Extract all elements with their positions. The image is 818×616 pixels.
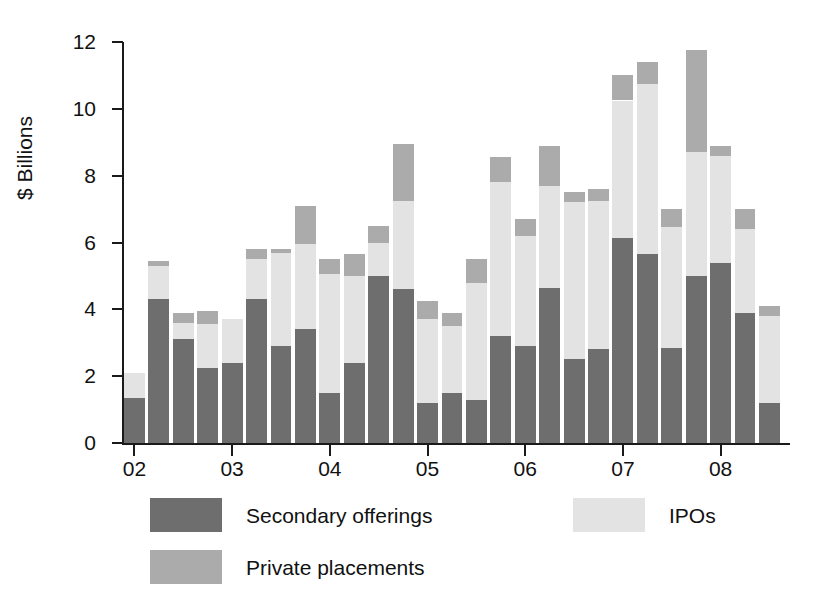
bar-07Q1 [612, 42, 633, 443]
bar-segment-ipos [319, 274, 340, 393]
bar-segment-secondary-offerings [442, 393, 463, 443]
x-tick-label-06: 06 [514, 458, 537, 480]
bar-06Q1 [515, 42, 536, 443]
bar-segment-secondary-offerings [344, 363, 365, 443]
bar-segment-secondary-offerings [368, 276, 389, 443]
bar-segment-ipos [393, 201, 414, 290]
bar-segment-secondary-offerings [759, 403, 780, 443]
bar-segment-private-placements [661, 209, 682, 227]
bar-segment-private-placements [319, 259, 340, 274]
bar-segment-private-placements [539, 146, 560, 186]
bar-segment-secondary-offerings [271, 346, 292, 443]
chart-figure: $ Billions 024681012 02030405060708 Seco… [0, 0, 818, 616]
bar-02Q4 [197, 42, 218, 443]
y-tick-label-text: 10 [73, 98, 96, 119]
bar-segment-ipos [612, 101, 633, 238]
bar-segment-private-placements [612, 75, 633, 100]
bar-segment-ipos [661, 227, 682, 347]
x-tick-06 [524, 445, 526, 456]
x-tick-05 [427, 445, 429, 456]
bar-segment-private-placements [759, 306, 780, 316]
y-tick-label-text: 12 [73, 31, 96, 52]
bar-segment-secondary-offerings [173, 339, 194, 443]
bar-segment-private-placements [393, 144, 414, 201]
bar-segment-secondary-offerings [612, 238, 633, 444]
bar-segment-secondary-offerings [588, 349, 609, 443]
y-tick-label-text: 8 [84, 165, 96, 186]
x-tick-03 [231, 445, 233, 456]
bar-02Q1 [124, 42, 145, 443]
bar-04Q1 [319, 42, 340, 443]
bar-segment-secondary-offerings [295, 329, 316, 443]
bar-segment-private-placements [637, 62, 658, 84]
bar-04Q4 [393, 42, 414, 443]
bar-segment-secondary-offerings [564, 359, 585, 443]
legend-item-ipos: IPOs [573, 498, 716, 532]
bar-segment-private-placements [246, 249, 267, 259]
bar-segment-secondary-offerings [515, 346, 536, 443]
bar-segment-private-placements [466, 259, 487, 282]
bar-segment-secondary-offerings [319, 393, 340, 443]
x-tick-label-08: 08 [709, 458, 732, 480]
bar-segment-ipos [344, 276, 365, 363]
bar-05Q1 [417, 42, 438, 443]
bar-06Q4 [588, 42, 609, 443]
bar-segment-ipos [417, 319, 438, 403]
legend-swatch-secondary-offerings [150, 498, 222, 532]
bar-segment-ipos [637, 84, 658, 254]
legend-label-ipos: IPOs [669, 505, 716, 526]
bar-segment-ipos [710, 156, 731, 263]
x-tick-04 [329, 445, 331, 456]
bar-06Q3 [564, 42, 585, 443]
bar-segment-private-placements [564, 192, 585, 202]
bar-segment-ipos [466, 283, 487, 400]
bar-segment-ipos [148, 266, 169, 299]
bar-segment-private-placements [490, 157, 511, 182]
bar-08Q2 [735, 42, 756, 443]
bar-segment-private-placements [148, 261, 169, 266]
bar-series-group [122, 42, 790, 443]
bar-segment-ipos [295, 244, 316, 329]
bar-segment-private-placements [197, 311, 218, 324]
y-tick-label-text: 6 [84, 232, 96, 253]
y-tick-label-text: 4 [84, 298, 96, 319]
bar-segment-secondary-offerings [417, 403, 438, 443]
bar-segment-private-placements [295, 206, 316, 244]
bar-segment-secondary-offerings [466, 400, 487, 443]
bar-segment-private-placements [735, 209, 756, 229]
bar-segment-ipos [197, 324, 218, 367]
bar-05Q4 [490, 42, 511, 443]
bar-03Q4 [295, 42, 316, 443]
bar-segment-secondary-offerings [246, 299, 267, 443]
bar-05Q3 [466, 42, 487, 443]
bar-segment-ipos [173, 323, 194, 340]
bar-segment-secondary-offerings [637, 254, 658, 443]
bar-segment-private-placements [686, 50, 707, 152]
bar-segment-secondary-offerings [148, 299, 169, 443]
bar-segment-ipos [246, 259, 267, 299]
bar-03Q3 [271, 42, 292, 443]
legend-item-secondary-offerings: Secondary offerings [150, 498, 432, 532]
legend-label-secondary-offerings: Secondary offerings [246, 505, 432, 526]
bar-02Q2 [148, 42, 169, 443]
bar-segment-secondary-offerings [490, 336, 511, 443]
bar-segment-private-placements [442, 313, 463, 326]
bar-segment-ipos [124, 373, 145, 398]
bar-04Q2 [344, 42, 365, 443]
bar-segment-secondary-offerings [539, 288, 560, 443]
bar-segment-ipos [442, 326, 463, 393]
bar-segment-private-placements [588, 189, 609, 201]
bar-07Q3 [661, 42, 682, 443]
bar-segment-private-placements [515, 219, 536, 236]
bar-segment-secondary-offerings [124, 398, 145, 443]
bar-segment-private-placements [344, 254, 365, 276]
bar-segment-ipos [588, 201, 609, 350]
bar-segment-private-placements [710, 146, 731, 156]
bar-segment-ipos [686, 152, 707, 276]
bar-segment-private-placements [417, 301, 438, 319]
chart-legend: Secondary offerings Private placements I… [150, 498, 790, 588]
bar-segment-ipos [564, 202, 585, 359]
bar-08Q1 [710, 42, 731, 443]
bar-segment-secondary-offerings [393, 289, 414, 443]
bar-segment-secondary-offerings [710, 263, 731, 443]
